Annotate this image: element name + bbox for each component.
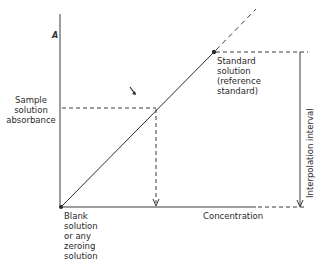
standard-label-line: Standard bbox=[217, 56, 261, 66]
blank-label-line: solution bbox=[64, 251, 98, 259]
y-axis-label: A bbox=[52, 31, 58, 40]
standard-label-line: solution bbox=[217, 66, 261, 76]
calibration-extrapolation bbox=[216, 9, 256, 50]
standard-label-line: standard) bbox=[217, 86, 261, 96]
sample-label-line: absorbance bbox=[4, 115, 58, 125]
sample-label-line: Sample bbox=[4, 95, 58, 105]
blank-solution-label: Blank solution or any zeroing solution bbox=[64, 211, 98, 259]
diagram-canvas bbox=[0, 0, 319, 259]
sample-absorbance-label: Sample solution absorbance bbox=[4, 95, 58, 125]
blank-label-line: zeroing bbox=[64, 241, 98, 251]
standard-solution-label: Standard solution (reference standard) bbox=[217, 56, 261, 96]
standard-point bbox=[212, 50, 216, 54]
blank-label-line: solution bbox=[64, 221, 98, 231]
blank-label-line: Blank bbox=[64, 211, 98, 221]
sample-label-line: solution bbox=[4, 105, 58, 115]
blank-point bbox=[59, 205, 63, 209]
x-axis-label: Concentration bbox=[203, 211, 263, 221]
standard-label-line: (reference bbox=[217, 76, 261, 86]
interpolation-interval-label: Interpolation interval bbox=[305, 108, 315, 198]
calibration-line bbox=[61, 52, 214, 207]
blank-label-line: or any bbox=[64, 231, 98, 241]
